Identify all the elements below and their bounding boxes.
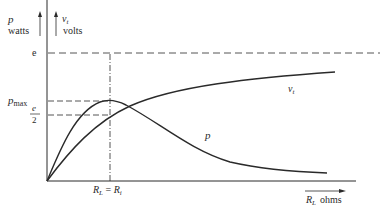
power-curve-label: p: [204, 129, 211, 141]
y-axis-power-symbol: p: [7, 13, 14, 25]
y-axis-voltage-unit: volts: [63, 25, 83, 36]
power-voltage-vs-load-diagram: p watts vt volts e pmax e 2 vt p RL = Ri…: [0, 0, 380, 207]
up-arrow-icon: [38, 11, 42, 36]
svg-text:2: 2: [32, 115, 37, 125]
x-axis-label: RLohms: [305, 194, 342, 207]
matched-load-tick-label: RL = Ri: [92, 184, 122, 197]
voltage-curve-label: vt: [288, 83, 295, 96]
up-arrow-icon: [54, 11, 58, 36]
half-e-tick-label: e 2: [30, 103, 40, 125]
svg-text:e: e: [32, 103, 36, 113]
right-arrow-icon: [305, 189, 346, 193]
power-curve: [47, 100, 327, 181]
y-axis-power-unit: watts: [8, 25, 29, 36]
e-tick-label: e: [32, 47, 37, 58]
p-max-tick-label: pmax: [7, 94, 27, 108]
